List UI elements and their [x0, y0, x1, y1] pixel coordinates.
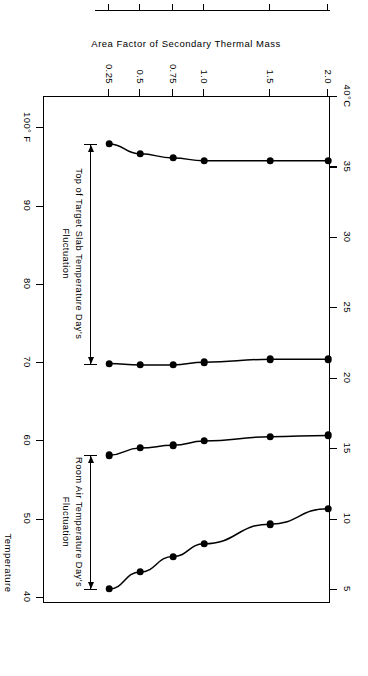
fahrenheit-tick	[36, 519, 43, 520]
fahrenheit-tick-label: 100° F	[23, 112, 33, 143]
annotation-label: Top of Target Slab Temperature Day's	[74, 168, 83, 339]
annotation-end-cap	[84, 589, 97, 590]
fahrenheit-tick-label: 70	[23, 356, 33, 367]
annotation-end-cap	[84, 364, 97, 365]
celsius-tick-label: 30	[343, 231, 353, 242]
celsius-tick	[330, 166, 337, 167]
fahrenheit-tick-label: 80	[23, 278, 33, 289]
area-factor-tick	[172, 89, 173, 96]
celsius-tick	[330, 237, 337, 238]
thickness-axis-line	[95, 10, 330, 11]
fahrenheit-tick-label: 40	[23, 591, 33, 602]
area-factor-tick-label: 1.5	[265, 70, 275, 84]
series-line	[109, 509, 328, 589]
annotation-arrow-line	[90, 144, 91, 364]
annotation-arrow-head	[88, 145, 94, 152]
celsius-tick-label: 10	[343, 513, 353, 524]
figure-canvas: 40°C3530252015105 100° F908070605040 2.0…	[0, 0, 368, 676]
celsius-tick-label: 35	[343, 161, 353, 172]
area-factor-tick-label: 0.5	[135, 70, 145, 84]
area-factor-tick	[139, 89, 140, 96]
celsius-tick-label: 40°C	[343, 85, 353, 108]
area-factor-tick-label: 1.0	[199, 70, 209, 84]
celsius-tick	[330, 96, 337, 97]
annotation-label: Fluctuation	[61, 497, 70, 547]
thickness-tick	[108, 4, 109, 11]
fahrenheit-tick	[36, 440, 43, 441]
annotation-arrow-head	[88, 357, 94, 364]
fahrenheit-tick-label: 50	[23, 513, 33, 524]
fahrenheit-tick-label: 90	[23, 200, 33, 211]
celsius-tick	[330, 307, 337, 308]
axis-title-temperature: Temperature	[4, 534, 14, 593]
annotation-arrow-head	[88, 582, 94, 589]
thickness-tick	[203, 4, 204, 11]
celsius-tick	[330, 378, 337, 379]
area-factor-tick-label: 0.25	[104, 64, 114, 84]
annotation-arrow-line	[90, 455, 91, 589]
celsius-tick	[330, 589, 337, 590]
thickness-tick	[269, 4, 270, 11]
data-curves	[0, 0, 368, 676]
area-factor-tick	[203, 89, 204, 96]
celsius-tick-label: 20	[343, 372, 353, 383]
celsius-tick-label: 25	[343, 302, 353, 313]
fahrenheit-tick	[36, 284, 43, 285]
annotation-arrow-head	[88, 456, 94, 463]
celsius-tick	[330, 448, 337, 449]
area-factor-tick-label: 0.75	[168, 64, 178, 84]
thickness-tick	[327, 4, 328, 11]
fahrenheit-tick-label: 60	[23, 435, 33, 446]
thickness-tick	[172, 4, 173, 11]
area-factor-tick-label: 2.0	[323, 70, 333, 84]
axis-title-area-factor: Area Factor of Secondary Thermal Mass	[92, 39, 281, 49]
annotation-label: Room Air Temperature Day's	[74, 457, 83, 587]
fahrenheit-tick	[36, 206, 43, 207]
area-factor-tick	[327, 89, 328, 96]
fahrenheit-tick	[36, 362, 43, 363]
annotation-label: Fluctuation	[61, 228, 70, 278]
thickness-tick	[139, 4, 140, 11]
celsius-tick-label: 15	[343, 442, 353, 453]
celsius-tick-label: 5	[343, 586, 353, 592]
rotated-figure-stage: 40°C3530252015105 100° F908070605040 2.0…	[0, 0, 368, 676]
area-factor-tick	[108, 89, 109, 96]
fahrenheit-tick	[36, 127, 43, 128]
area-factor-tick	[269, 89, 270, 96]
fahrenheit-tick	[36, 597, 43, 598]
celsius-tick	[330, 519, 337, 520]
